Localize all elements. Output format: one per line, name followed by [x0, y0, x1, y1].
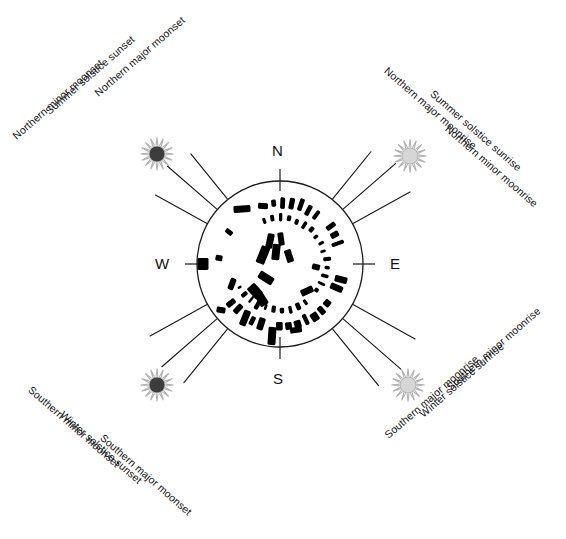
stone-plan — [198, 197, 348, 345]
fallen-stone — [300, 285, 315, 297]
fallen-stone — [227, 277, 237, 290]
alignment-rays — [150, 152, 415, 386]
fallen-stone — [311, 263, 320, 271]
fallen-stone — [258, 203, 268, 210]
sarsen-stone — [276, 322, 283, 330]
sarsen-stone — [225, 298, 236, 309]
sarsen-stone — [280, 197, 285, 209]
fallen-stone — [233, 205, 250, 213]
cardinal-label-east: E — [390, 255, 400, 272]
cardinal-label-west: W — [155, 255, 169, 272]
bluestone — [295, 302, 302, 311]
trilithon-stone — [277, 232, 285, 246]
sarsen-stone — [322, 298, 332, 308]
sun-set-icon-winter-solstice-sunset — [141, 369, 174, 402]
alignment-ray-summer-solstice-sunrise — [343, 164, 395, 209]
sarsen-stone — [331, 239, 345, 247]
sarsen-stone — [301, 313, 310, 325]
trilithon-stone — [257, 270, 275, 285]
moon-icon-northern-major-moonset — [177, 123, 190, 149]
fallen-stone — [198, 258, 209, 270]
sarsen-stone — [288, 198, 295, 210]
alignment-ray-northern-minor-moonrise — [353, 192, 409, 223]
sarsen-stone — [309, 311, 320, 323]
alignment-ray-southern-minor-moonrise — [353, 305, 415, 339]
bluestone — [286, 215, 291, 221]
sun-rise-icon-summer-solstice-sunrise — [394, 140, 427, 173]
moon-icon-southern-minor-moonrise — [424, 339, 437, 365]
alignment-ray-northern-major-moonrise — [333, 152, 371, 199]
sarsen-stone — [232, 303, 243, 315]
bluestone — [318, 240, 325, 245]
bluestone — [288, 306, 293, 314]
sarsen-stone — [329, 282, 344, 293]
bluestone — [320, 249, 326, 253]
sarsen-stone — [312, 210, 321, 221]
bluestone — [313, 234, 319, 240]
sun-set-icon-summer-solstice-sunset — [141, 138, 174, 171]
bluestone — [279, 213, 282, 222]
moon-icon-southern-major-moonrise — [379, 391, 392, 417]
bluestone — [302, 299, 308, 306]
bluestone — [294, 219, 300, 226]
sarsen-stone — [304, 204, 313, 216]
bluestone — [237, 285, 242, 289]
bluestone — [321, 273, 329, 278]
sarsen-stone — [329, 230, 339, 239]
fallen-stone — [216, 306, 226, 313]
alignment-ray-summer-solstice-sunset — [168, 166, 217, 209]
diagram-canvas: NESW Northern major moonsetSummer solsti… — [0, 0, 566, 539]
sarsen-stone — [248, 316, 256, 326]
alignment-ray-southern-major-moonrise — [333, 329, 379, 385]
sarsen-stone — [271, 199, 276, 207]
bluestone — [280, 308, 285, 314]
moon-icon-southern-minor-moonset — [130, 339, 143, 365]
bluestone — [313, 287, 319, 293]
alignment-ray-northern-minor-moonset — [155, 195, 206, 223]
bluestone — [270, 215, 275, 222]
sarsen-stone — [316, 305, 326, 316]
bluestone — [323, 257, 331, 262]
moon-icon-northern-minor-moonrise — [425, 177, 438, 203]
moon-icon-southern-major-moonset — [175, 391, 188, 417]
trilithon-stone — [255, 245, 270, 265]
sarsen-stone — [256, 317, 266, 331]
cardinal-ticks — [185, 169, 375, 359]
fallen-stone — [215, 254, 223, 261]
alignment-ray-winter-solstice-sunset — [162, 319, 217, 367]
fallen-stone — [267, 327, 276, 346]
bluestone — [262, 217, 267, 224]
bluestone — [308, 226, 315, 233]
bluestone — [301, 221, 308, 230]
moon-icon-northern-minor-moonset — [129, 177, 142, 203]
sun-rise-icon-winter-solstice-sunrise — [392, 369, 425, 402]
bluestone — [324, 266, 330, 270]
bluestone — [317, 281, 325, 287]
cardinal-label-north: N — [272, 142, 283, 159]
bluestone — [271, 305, 276, 313]
trilithon-stone — [271, 244, 281, 261]
trilithon-stone — [284, 249, 295, 264]
fallen-stone — [224, 228, 233, 237]
sarsen-stone — [334, 275, 348, 285]
bluestone — [240, 290, 248, 298]
sarsen-stone — [297, 198, 306, 211]
alignment-ray-southern-minor-moonset — [150, 305, 206, 336]
alignment-ray-southern-major-moonset — [184, 329, 227, 382]
sarsen-stone — [325, 221, 336, 231]
moon-icon-northern-major-moonrise — [372, 121, 385, 147]
cardinal-label-south: S — [273, 370, 283, 387]
